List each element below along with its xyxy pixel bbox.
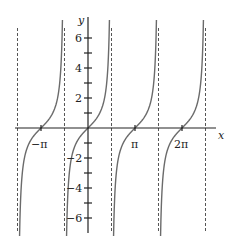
- y-axis-label: y: [77, 14, 85, 27]
- y-tick-label-neg6: −6: [66, 212, 82, 225]
- y-tick-label-4: 4: [75, 62, 82, 75]
- y-tick-label-2: 2: [75, 92, 82, 105]
- y-tick-label-neg4: −4: [66, 182, 82, 195]
- x-tick-label-2pi: 2π: [174, 138, 188, 151]
- y-tick-label-6: 6: [75, 32, 82, 45]
- x-tick-label-neg-pi: −π: [31, 138, 47, 151]
- x-tick-label-pi: π: [131, 138, 138, 151]
- asymptote-lines: [18, 28, 206, 232]
- tangent-plot: x y −π π 2π 6 4 2 −2 −4 −6: [0, 0, 229, 240]
- x-axis-label: x: [218, 129, 225, 142]
- y-tick-label-neg2: −2: [66, 152, 82, 165]
